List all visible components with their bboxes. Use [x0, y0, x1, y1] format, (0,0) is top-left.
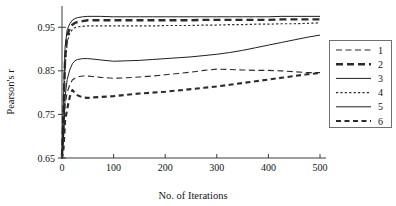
- axes: [62, 6, 326, 158]
- y-tick-label: 0.65: [38, 153, 56, 164]
- y-tick-label: 0.85: [38, 65, 56, 76]
- x-axis-ticks: 0100200300400500: [60, 154, 328, 173]
- legend-label-5: 5: [378, 101, 383, 112]
- legend-label-1: 1: [378, 45, 383, 56]
- series-line-6: [62, 73, 320, 159]
- x-axis-title: No. of Iterations: [158, 190, 227, 201]
- legend-label-4: 4: [378, 87, 383, 98]
- x-tick-label: 100: [106, 162, 121, 173]
- y-tick-label: 0.95: [38, 22, 56, 33]
- y-axis-title: Pearson's r: [5, 69, 16, 115]
- series-line-3: [62, 16, 320, 155]
- y-tick-label: 0.75: [38, 109, 56, 120]
- x-tick-label: 300: [209, 162, 224, 173]
- x-tick-label: 400: [261, 162, 276, 173]
- x-tick-label: 500: [313, 162, 328, 173]
- series-line-1: [62, 69, 320, 157]
- chart-container: 0100200300400500 0.650.750.850.95 No. of…: [0, 0, 396, 206]
- legend-label-2: 2: [378, 59, 383, 70]
- series-line-2: [62, 19, 320, 156]
- legend-label-6: 6: [378, 116, 383, 127]
- series-line-4: [62, 23, 320, 158]
- x-tick-label: 0: [60, 162, 65, 173]
- legend-label-3: 3: [378, 73, 383, 84]
- series-lines: [62, 16, 320, 159]
- series-line-5: [62, 35, 320, 157]
- x-tick-label: 200: [158, 162, 173, 173]
- legend: 123456: [330, 41, 392, 128]
- line-chart: 0100200300400500 0.650.750.850.95 No. of…: [0, 0, 396, 206]
